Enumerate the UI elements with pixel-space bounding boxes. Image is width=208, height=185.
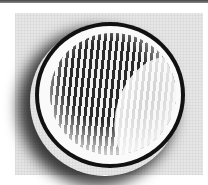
- top-border: [0, 0, 208, 3]
- lens-striped-disc: [50, 33, 176, 155]
